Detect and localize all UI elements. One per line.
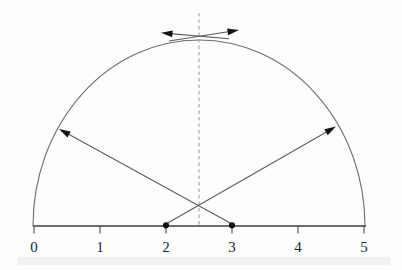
axis-tick-label-1: 1 [96,239,104,255]
axis-tick-label-5: 5 [360,239,368,255]
chord-arrow-up-right-head [324,127,336,136]
figure-canvas: 012345 [0,0,402,270]
axis-tick-label-3: 3 [228,239,236,255]
chord-arrow-up-right-shaft [166,131,328,224]
semicircle-diagram: 012345 [0,0,402,270]
chord-arrow-up-left-shaft [67,134,232,224]
axis-tick-label-2: 2 [162,239,170,255]
scan-artifact-band [18,257,390,265]
point-3-dot [229,222,235,228]
apex-arrow-left-head [161,30,173,37]
point-2-dot [163,222,169,228]
axis-tick-label-0: 0 [30,239,38,255]
apex-arrow-right-head [227,28,239,35]
axis-tick-label-4: 4 [294,239,302,255]
chord-arrow-up-left-head [59,129,71,138]
